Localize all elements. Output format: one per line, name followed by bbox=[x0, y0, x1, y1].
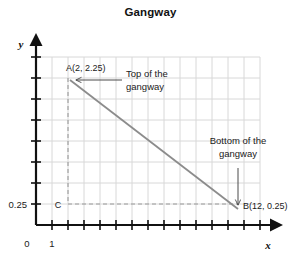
coordinate-plot: y x 0 1 0.25 A(2, 2.25) B(12, 0.25) C To… bbox=[0, 0, 301, 267]
point-b-label: B(12, 0.25) bbox=[243, 201, 288, 211]
top-of-gangway-label-line2: gangway bbox=[126, 81, 164, 92]
y-tick-label-025: 0.25 bbox=[9, 199, 28, 210]
bottom-of-gangway-label-line1: Bottom of the bbox=[210, 135, 267, 146]
y-axis-label: y bbox=[17, 38, 24, 50]
point-c-label: C bbox=[55, 200, 62, 210]
bottom-of-gangway-label-line2: gangway bbox=[219, 148, 257, 159]
x-tick-label-1: 1 bbox=[49, 238, 54, 249]
gangway-figure: Gangway bbox=[0, 0, 301, 267]
top-of-gangway-label-line1: Top of the bbox=[126, 68, 168, 79]
x-axis-label: x bbox=[264, 239, 271, 251]
point-a-label: A(2, 2.25) bbox=[66, 63, 106, 73]
origin-label: 0 bbox=[24, 238, 29, 249]
